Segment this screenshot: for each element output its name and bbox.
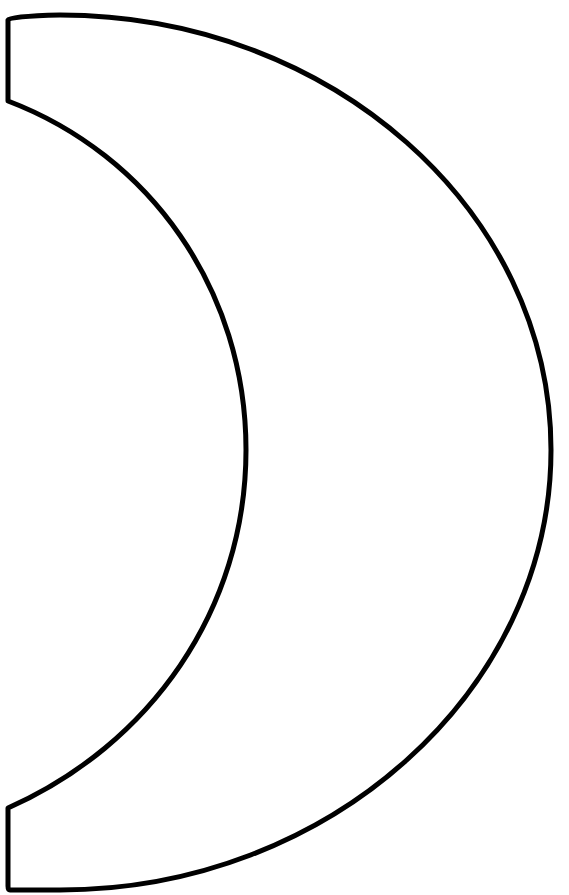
crescent-moon-shape (8, 15, 551, 890)
crescent-moon-drawing (0, 0, 569, 895)
